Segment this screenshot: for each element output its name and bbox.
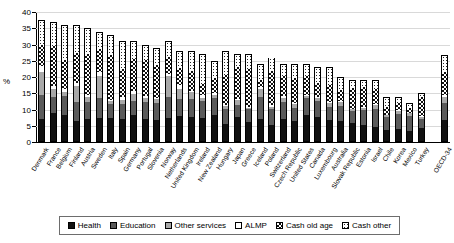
- bar-segment: [143, 119, 148, 141]
- bar-segment: [85, 29, 90, 53]
- legend-swatch: [276, 222, 283, 229]
- bar-segment: [189, 52, 194, 71]
- stacked-bar-chart: % 0510152025303540 DenmarkFranceBelgiumF…: [0, 0, 454, 243]
- bar-segment: [212, 115, 217, 141]
- bar-segment: [51, 23, 56, 46]
- bar[interactable]: [96, 32, 103, 143]
- bar[interactable]: [349, 80, 356, 142]
- bar[interactable]: [372, 80, 379, 142]
- bar-segment: [315, 68, 320, 83]
- bar[interactable]: [245, 54, 252, 142]
- bar[interactable]: [153, 48, 160, 142]
- bar[interactable]: [199, 54, 206, 142]
- chart-legend: HealthEducationOther servicesALMPCash ol…: [59, 216, 400, 235]
- bar[interactable]: [314, 67, 321, 142]
- bar-segment: [315, 101, 320, 117]
- bar-segment: [200, 101, 205, 118]
- bar-segment: [327, 120, 332, 141]
- bar-segment: [74, 53, 79, 83]
- bar-segment: [304, 98, 309, 115]
- bar[interactable]: [119, 41, 126, 142]
- bar-segment: [281, 102, 286, 118]
- bar[interactable]: [188, 51, 195, 142]
- bar-segment: [51, 46, 56, 86]
- bar[interactable]: [165, 41, 172, 142]
- y-axis-tick-label: 25: [0, 56, 31, 65]
- bar-segment: [361, 87, 366, 107]
- bar[interactable]: [38, 20, 45, 142]
- bar[interactable]: [360, 80, 367, 142]
- bar-segment: [97, 76, 102, 98]
- bar-segment: [315, 117, 320, 141]
- legend-item[interactable]: Other services: [165, 221, 227, 230]
- bar-segment: [200, 118, 205, 141]
- bar[interactable]: [234, 54, 241, 142]
- legend-swatch: [110, 222, 117, 229]
- bar-segment: [97, 98, 102, 119]
- bar[interactable]: [303, 64, 310, 142]
- legend-item[interactable]: Cash old age: [276, 221, 333, 230]
- bar-segment: [189, 71, 194, 91]
- bar-segment: [177, 99, 182, 116]
- bar-segment: [51, 97, 56, 113]
- bar-segment: [327, 107, 332, 120]
- bar-segment: [97, 49, 102, 73]
- bar[interactable]: [326, 67, 333, 142]
- bar[interactable]: [418, 93, 425, 142]
- bar-segment: [396, 114, 401, 129]
- bar[interactable]: [406, 103, 413, 142]
- bar[interactable]: [211, 61, 218, 142]
- bar[interactable]: [383, 97, 390, 143]
- legend-item[interactable]: Education: [110, 221, 156, 230]
- bar-segment: [384, 107, 389, 115]
- bar[interactable]: [73, 25, 80, 142]
- legend-item[interactable]: Cash other: [342, 221, 391, 230]
- bar-segment: [154, 65, 159, 98]
- bar-segment: [85, 54, 90, 95]
- legend-label: Education: [120, 221, 156, 230]
- bar[interactable]: [268, 58, 275, 143]
- legend-item[interactable]: Health: [68, 221, 101, 230]
- bar[interactable]: [291, 64, 298, 142]
- bar-segment: [223, 52, 228, 75]
- bar[interactable]: [280, 64, 287, 142]
- bar[interactable]: [50, 22, 57, 142]
- bar-segment: [327, 68, 332, 84]
- bar-segment: [361, 125, 366, 141]
- bar[interactable]: [395, 97, 402, 143]
- bar[interactable]: [142, 45, 149, 143]
- bar-segment: [97, 118, 102, 141]
- bar-segment: [108, 118, 113, 141]
- bar-segment: [258, 89, 263, 97]
- bar[interactable]: [61, 25, 68, 142]
- bar[interactable]: [84, 28, 91, 142]
- bar-segment: [62, 96, 67, 115]
- bar-segment: [223, 124, 228, 141]
- legend-item[interactable]: ALMP: [235, 221, 267, 230]
- bar-segment: [131, 59, 136, 91]
- bar-segment: [120, 42, 125, 68]
- y-axis-tick-label: 0: [0, 138, 31, 147]
- bar-segment: [235, 67, 240, 99]
- bar-segment: [338, 90, 343, 101]
- bar[interactable]: [222, 51, 229, 142]
- legend-swatch: [165, 222, 172, 229]
- grid-line: [36, 12, 450, 13]
- bar-segment: [246, 109, 251, 122]
- bar[interactable]: [107, 35, 114, 142]
- bar[interactable]: [130, 41, 137, 142]
- bar-segment: [177, 89, 182, 99]
- y-axis-tick-label: 35: [0, 24, 31, 33]
- bar[interactable]: [176, 51, 183, 142]
- bar-segment: [373, 81, 378, 89]
- bar[interactable]: [257, 64, 264, 142]
- bar-segment: [258, 65, 263, 80]
- bar-segment: [200, 55, 205, 83]
- y-axis-tick-label: 10: [0, 105, 31, 114]
- bar-segment: [384, 98, 389, 107]
- bar-segment: [338, 78, 343, 90]
- bar[interactable]: [441, 55, 448, 142]
- bar-segment: [177, 116, 182, 141]
- bar-segment: [419, 119, 424, 128]
- bar[interactable]: [337, 77, 344, 142]
